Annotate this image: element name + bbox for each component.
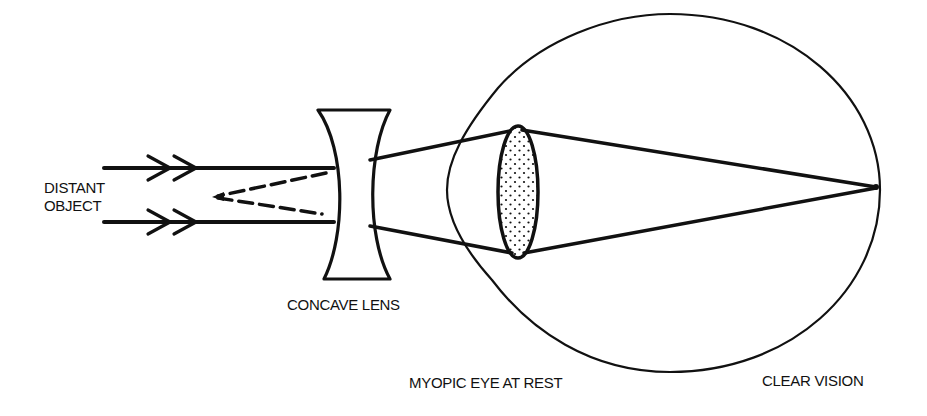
converging-ray-top <box>522 130 876 187</box>
distant-object-label: DISTANT OBJECT <box>44 179 105 215</box>
concave-lens <box>318 110 390 279</box>
distant-object-label-line1: DISTANT <box>44 179 105 197</box>
clear-vision-label: CLEAR VISION <box>762 372 863 390</box>
focal-point <box>873 184 879 190</box>
eye-crystalline-lens <box>498 126 538 258</box>
diverging-ray-top <box>370 131 510 160</box>
concave-lens-label: CONCAVE LENS <box>287 296 400 314</box>
diverging-ray-bottom <box>370 226 512 253</box>
virtual-ray-lines <box>218 173 326 214</box>
distant-object-label-line2: OBJECT <box>44 197 105 215</box>
myopia-correction-diagram <box>0 0 927 416</box>
converging-ray-bottom <box>524 188 876 253</box>
myopic-eye-label: MYOPIC EYE AT REST <box>409 374 562 392</box>
